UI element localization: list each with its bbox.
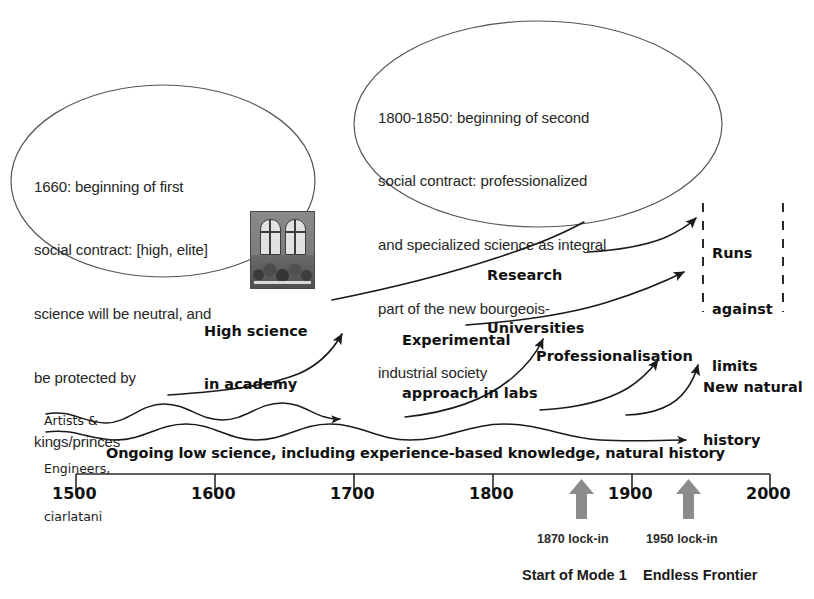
axis-label-2000: 2000 (746, 484, 791, 505)
lockin-caption-start-of-mode-1: Start of Mode 1 (522, 566, 627, 585)
high-science-line: in academy (204, 376, 334, 394)
lockin-caption-endless-frontier: Endless Frontier (643, 566, 757, 585)
callout-line: social contract: [high, elite] (34, 239, 302, 260)
axis-label-1500: 1500 (52, 484, 97, 505)
axis-label-1900: 1900 (608, 484, 653, 505)
callout-line: social contract: professionalized (378, 170, 698, 191)
axis-label-1700: 1700 (330, 484, 375, 505)
label-artists-engineers: Artists & Engineers, ciarlatani (44, 381, 134, 557)
lockin-arrow-1870 (569, 479, 594, 519)
runs-against-limits-line: against (712, 300, 782, 319)
label-new-natural-history: New natural history (703, 344, 813, 486)
lockin-label-1950: 1950 lock-in (646, 531, 718, 547)
lockin-arrow-1950 (676, 479, 701, 519)
label-professionalisation: Professionalisation (536, 348, 693, 366)
label-ongoing-low-science: Ongoing low science, including experienc… (106, 444, 725, 463)
artists-line: Engineers, (44, 461, 134, 477)
artists-line: Artists & (44, 413, 134, 429)
axis-label-1600: 1600 (191, 484, 236, 505)
callout-line: 1660: beginning of first (34, 176, 302, 197)
artists-line: ciarlatani (44, 509, 134, 525)
new-natural-history-line: New natural (703, 379, 813, 397)
runs-against-limits-line: Runs (712, 244, 782, 263)
lockin-label-1870: 1870 lock-in (537, 531, 609, 547)
label-experimental-approach: Experimental approach in labs (402, 297, 562, 439)
research-universities-line: Research (487, 267, 607, 285)
label-high-science-in-academy: High science in academy (204, 288, 334, 430)
high-science-line: High science (204, 323, 334, 341)
callout-line: 1800-1850: beginning of second (378, 107, 698, 128)
axis-label-1800: 1800 (469, 484, 514, 505)
timeline-figure: 1660: beginning of first social contract… (0, 0, 814, 599)
experimental-line: approach in labs (402, 385, 562, 403)
